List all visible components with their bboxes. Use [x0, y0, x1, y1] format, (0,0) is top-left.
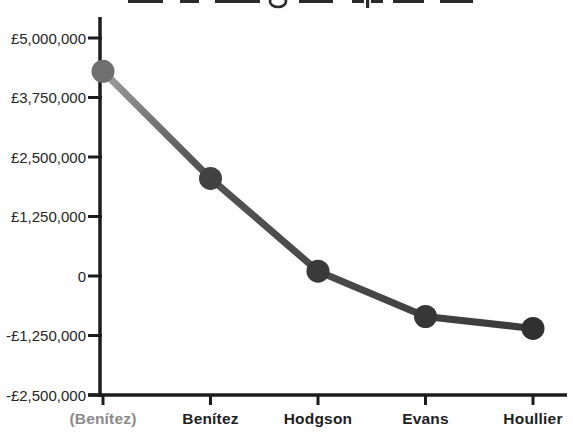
- data-point: [199, 167, 222, 190]
- x-category-label: Houllier: [503, 410, 562, 427]
- y-tick-label: £5,000,000: [11, 30, 86, 47]
- data-point: [522, 317, 545, 340]
- title-letter-bottom: [440, 0, 473, 3]
- y-tick-label: -£1,250,000: [6, 327, 86, 344]
- y-tick-label: 0: [78, 268, 86, 285]
- title-descender-p: [366, 0, 369, 8]
- title-descender-g: [270, 0, 286, 7]
- scanned-chart-page: £5,000,000£3,750,000£2,500,000£1,250,000…: [0, 0, 573, 438]
- net-spend-line-chart: £5,000,000£3,750,000£2,500,000£1,250,000…: [0, 0, 573, 438]
- data-point: [92, 60, 115, 83]
- title-letter-bottom: [393, 0, 424, 3]
- x-category-label: Evans: [402, 410, 449, 427]
- y-tick-label: £1,250,000: [11, 208, 86, 225]
- y-tick-label: £2,500,000: [11, 149, 86, 166]
- title-letter-bottom: [215, 0, 260, 3]
- title-letter-bottom: [371, 0, 383, 3]
- y-tick-label: £3,750,000: [11, 89, 86, 106]
- data-point: [307, 260, 330, 283]
- title-letter-bottom: [299, 0, 333, 3]
- trend-line: [103, 71, 533, 328]
- data-point: [414, 305, 437, 328]
- x-category-label: Hodgson: [284, 410, 353, 427]
- x-category-label: (Benítez): [69, 410, 136, 427]
- x-category-label: Benítez: [182, 410, 239, 427]
- title-letter-bottom: [352, 0, 364, 3]
- clipped-title-fragment: [128, 0, 473, 8]
- y-tick-label: -£2,500,000: [6, 387, 86, 404]
- title-letter-bottom: [180, 0, 199, 3]
- title-letter-bottom: [128, 0, 163, 3]
